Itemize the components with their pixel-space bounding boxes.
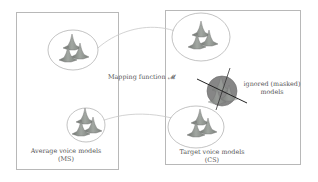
mapping-function-label: Mapping function 𝓜 — [108, 73, 175, 81]
cs-cluster-top — [172, 13, 230, 61]
ms-label-line2: (MS) — [20, 155, 112, 163]
ignored-masked-cluster — [197, 68, 247, 110]
target-voice-models-label: Target voice models (CS) — [172, 148, 252, 164]
cs-label-line1: Target voice models — [172, 148, 252, 156]
ignored-label-line2: models — [241, 88, 303, 96]
cs-label-line2: (CS) — [172, 156, 252, 164]
ignored-label-line1: ignored (masked) — [241, 80, 303, 88]
ms-cluster-bottom — [67, 108, 105, 142]
ignored-models-label: ignored (masked) models — [241, 80, 303, 96]
ms-cluster-top — [48, 30, 98, 70]
cs-cluster-bottom — [168, 106, 224, 148]
average-voice-models-label: Average voice models (MS) — [20, 147, 112, 163]
ms-label-line1: Average voice models — [20, 147, 112, 155]
